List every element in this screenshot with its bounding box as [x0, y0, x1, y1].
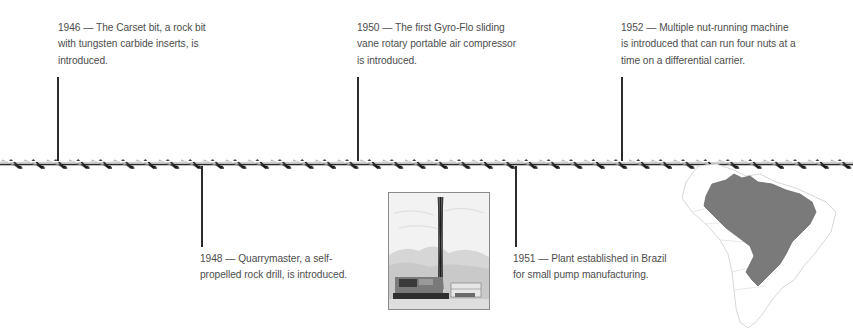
event-1946-line-1: 1946 — The Carset bit, a rock bit — [58, 20, 258, 36]
event-1951-connector — [515, 166, 517, 247]
drilling-rig-photo — [388, 192, 490, 310]
event-1952-line-2: is introduced that can run four nuts at … — [621, 36, 853, 52]
south-america-map — [676, 162, 853, 330]
event-1946-line-2: with tungsten carbide inserts, is — [58, 36, 258, 52]
event-1950-line-3: is introduced. — [357, 53, 567, 69]
event-1946-connector — [57, 77, 59, 161]
event-1948-line-1: 1948 — Quarrymaster, a self- — [200, 251, 400, 267]
event-1950-text: 1950 — The first Gyro-Flo sliding vane r… — [357, 20, 567, 69]
event-1952-text: 1952 — Multiple nut-running machine is i… — [621, 20, 853, 69]
event-1946-line-3: introduced. — [58, 53, 258, 69]
event-1950-line-2: vane rotary portable air compressor — [357, 36, 567, 52]
event-1948-line-2: propelled rock drill, is introduced. — [200, 267, 400, 283]
drilling-rig-illustration — [389, 193, 489, 309]
event-1948-connector — [201, 166, 203, 247]
event-1952-connector — [621, 77, 623, 161]
event-1948-text: 1948 — Quarrymaster, a self- propelled r… — [200, 251, 400, 284]
event-1952-line-1: 1952 — Multiple nut-running machine — [621, 20, 853, 36]
event-1946-text: 1946 — The Carset bit, a rock bit with t… — [58, 20, 258, 69]
event-1950-line-1: 1950 — The first Gyro-Flo sliding — [357, 20, 567, 36]
event-1952-line-3: time on a differential carrier. — [621, 53, 853, 69]
event-1950-connector — [357, 77, 359, 161]
